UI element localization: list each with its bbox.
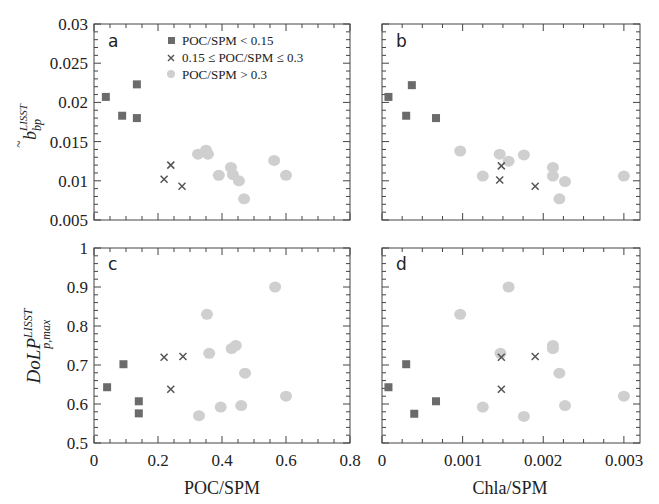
- circle-marker: [235, 400, 247, 411]
- legend-label-1: 0.15 ≤ POC/SPM ≤ 0.3: [182, 50, 303, 65]
- square-marker: [402, 360, 410, 368]
- legend-square-marker: [168, 37, 175, 44]
- square-marker: [102, 93, 110, 101]
- x-tick-labels-left: 0 0.2 0.4 0.6 0.8: [90, 451, 361, 470]
- circle-marker: [202, 149, 214, 160]
- y-top-sub: bp: [30, 119, 44, 131]
- panel-b-frame: [382, 24, 640, 220]
- data-points: [102, 80, 630, 422]
- circle-marker: [239, 368, 251, 379]
- cross-marker: [498, 386, 505, 393]
- circle-marker: [230, 340, 242, 351]
- square-marker: [118, 112, 126, 120]
- circle-marker: [559, 176, 571, 187]
- svg-text:bbpLISST: bbpLISST: [17, 103, 44, 140]
- legend-label-2: POC/SPM > 0.3: [182, 67, 267, 82]
- square-marker: [133, 114, 141, 122]
- cross-marker: [496, 177, 503, 184]
- svg-text:DoLPLISSTp,max: DoLPLISSTp,max: [21, 307, 53, 384]
- circle-marker: [268, 155, 280, 166]
- cross-marker: [161, 354, 168, 361]
- cross-marker: [498, 162, 505, 169]
- x-tick-label: 0.4: [211, 451, 233, 470]
- legend-circle-marker: [167, 70, 175, 78]
- circle-marker: [238, 193, 250, 204]
- y-top-main: b: [20, 131, 40, 140]
- x-tick-label: 0: [90, 451, 99, 470]
- square-marker: [135, 397, 143, 405]
- y-tick-label: 0.015: [50, 133, 88, 152]
- circle-marker: [454, 146, 466, 157]
- y-tick-label: 0.005: [50, 211, 88, 230]
- circle-marker: [547, 343, 559, 354]
- square-marker: [410, 410, 418, 418]
- y-tick-label: 0.8: [67, 317, 88, 336]
- x-tick-label: 0.002: [524, 451, 562, 470]
- square-marker: [384, 383, 392, 391]
- cross-marker: [532, 353, 539, 360]
- figure: a b c d POC/SPM < 0.15 0.15 ≤ POC/SPM ≤ …: [0, 0, 659, 504]
- circle-marker: [203, 348, 215, 359]
- circle-marker: [547, 171, 559, 182]
- y-axis-title-bottom: DoLPLISSTp,max: [21, 307, 53, 384]
- y-tick-label: 0.03: [58, 15, 88, 34]
- circle-marker: [193, 410, 205, 421]
- circle-marker: [454, 309, 466, 320]
- legend: POC/SPM < 0.15 0.15 ≤ POC/SPM ≤ 0.3 POC/…: [167, 33, 303, 82]
- y-bottom-sup: LISST: [21, 307, 35, 339]
- x-tick-label: 0.2: [147, 451, 168, 470]
- circle-marker: [518, 149, 530, 160]
- y-bottom-sub: p,max: [39, 319, 53, 350]
- x-tick-label: 0.003: [605, 451, 643, 470]
- circle-marker: [280, 170, 292, 181]
- circle-marker: [553, 193, 565, 204]
- y-tick-label: 0.5: [67, 434, 88, 453]
- legend-cross-marker: [168, 55, 174, 61]
- circle-marker: [233, 175, 245, 186]
- circle-marker: [618, 171, 630, 182]
- x-tick-labels-right: 0 0.001 0.002 0.003: [378, 451, 643, 470]
- x-tick-label: 0.001: [444, 451, 482, 470]
- x-axis-title-right: Chla/SPM: [472, 478, 547, 498]
- y-tick-label: 0.6: [67, 395, 88, 414]
- circle-marker: [503, 156, 515, 167]
- circle-marker: [477, 402, 489, 413]
- square-marker: [384, 93, 392, 101]
- y-tick-label: 1: [80, 239, 89, 258]
- x-tick-label: 0: [378, 451, 387, 470]
- x-axis-title-left: POC/SPM: [184, 478, 260, 498]
- y-top-sup: LISST: [17, 103, 29, 132]
- panel-c-frame: [94, 248, 350, 443]
- cross-marker: [179, 183, 186, 190]
- y-tick-labels-top: 0.03 0.025 0.02 0.015 0.01 0.005: [50, 15, 88, 230]
- cross-marker: [167, 162, 174, 169]
- circle-marker: [215, 402, 227, 413]
- panel-letter-c: c: [108, 254, 117, 274]
- cross-marker: [179, 353, 186, 360]
- circle-marker: [477, 171, 489, 182]
- square-marker: [133, 80, 141, 88]
- y-tick-label: 0.7: [67, 356, 89, 375]
- circle-marker: [503, 282, 515, 293]
- circle-marker: [553, 368, 565, 379]
- square-marker: [432, 397, 440, 405]
- square-marker: [135, 409, 143, 417]
- y-tick-label: 0.025: [50, 54, 88, 73]
- square-marker: [408, 81, 416, 89]
- panel-letter-a: a: [108, 31, 118, 51]
- y-tick-labels-bottom: 1 0.9 0.8 0.7 0.6 0.5: [67, 239, 89, 453]
- square-marker: [402, 112, 410, 120]
- circle-marker: [280, 391, 292, 402]
- y-tick-label: 0.02: [58, 93, 88, 112]
- panel-letter-b: b: [396, 31, 407, 51]
- square-marker: [119, 360, 127, 368]
- tilde-mark: ~: [12, 140, 27, 148]
- cross-marker: [167, 386, 174, 393]
- legend-label-0: POC/SPM < 0.15: [182, 33, 274, 48]
- y-axis-title-top: bbpLISST ~: [12, 103, 44, 148]
- circle-marker: [559, 400, 571, 411]
- circle-marker: [213, 170, 225, 181]
- y-tick-label: 0.01: [58, 172, 88, 191]
- cross-marker: [161, 176, 168, 183]
- circle-marker: [518, 411, 530, 422]
